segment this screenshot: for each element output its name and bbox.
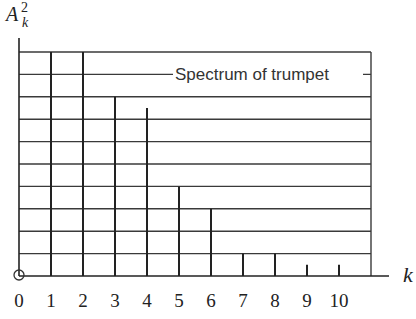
y-axis-label-base: A [4,3,19,25]
y-axis-label-sup: 2 [21,0,28,15]
x-tick-label: 0 [14,290,24,311]
x-tick-label: 9 [302,290,312,311]
x-tick-label: 4 [142,290,152,311]
x-tick-label: 6 [206,290,216,311]
x-tick-label: 7 [238,290,248,311]
x-tick-label: 3 [110,290,120,311]
grid-lines [19,52,371,276]
x-tick-label: 1 [46,290,56,311]
x-tick-labels: 012345678910 [14,290,348,311]
legend-label: Spectrum of trumpet [175,65,329,84]
x-tick-label: 2 [78,290,88,311]
spectrum-chart: 012345678910 Spectrum of trumpet A 2 k k [0,0,416,319]
x-tick-label: 8 [270,290,280,311]
x-tick-label: 10 [330,290,349,311]
y-axis-label-sub: k [22,15,29,30]
x-tick-label: 5 [174,290,184,311]
x-axis-label: k [403,262,414,287]
y-axis-label: A [4,3,19,25]
